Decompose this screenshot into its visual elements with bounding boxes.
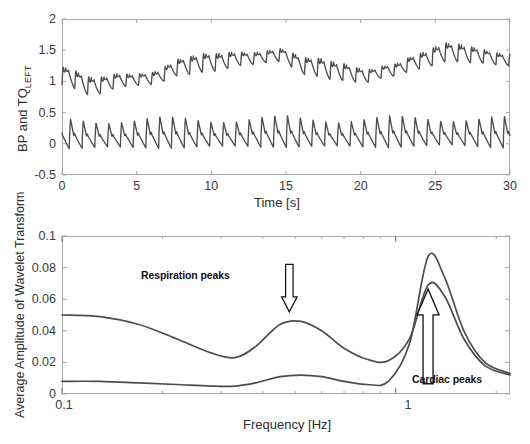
top-x-axis-title: Time [s] — [254, 196, 300, 209]
time-series-plot — [0, 0, 530, 215]
bottom-x-axis-title: Frequency [Hz] — [243, 418, 331, 431]
wavelet-spectrum-panel: 0.1 0.08 0.06 0.04 0.02 0 0.1 1 Average … — [0, 215, 530, 444]
figure-root: 2 1.5 1 0.5 0 -0.5 0 5 10 15 20 25 30 BP… — [0, 0, 530, 444]
bottom-y-axis-title: Average Amplitude of Wavelet Transform — [14, 192, 27, 419]
top-ytick-2: 2 — [18, 13, 56, 26]
top-xtick-30: 30 — [503, 180, 517, 193]
top-xtick-20: 20 — [354, 180, 368, 193]
top-ytick-1p5: 1.5 — [18, 44, 56, 57]
top-xtick-10: 10 — [204, 180, 218, 193]
top-xtick-5: 5 — [133, 180, 140, 193]
cardiac-peaks-label: Cardiac peaks — [412, 373, 482, 385]
top-y-axis-title-subscript: LEFT — [23, 65, 33, 88]
top-xtick-25: 25 — [428, 180, 442, 193]
top-xtick-0: 0 — [59, 180, 66, 193]
top-xtick-15: 15 — [279, 180, 293, 193]
wavelet-spectrum-plot — [0, 215, 530, 444]
top-y-axis-title-main: BP and TQ — [15, 88, 30, 152]
respiration-peaks-label: Respiration peaks — [141, 269, 230, 281]
top-y-axis-title: BP and TQLEFT — [16, 65, 33, 152]
time-series-panel: 2 1.5 1 0.5 0 -0.5 0 5 10 15 20 25 30 BP… — [0, 0, 530, 215]
top-ytick-neg0p5: -0.5 — [14, 169, 56, 182]
bottom-xtick-1: 1 — [405, 399, 412, 412]
bottom-xtick-0p1: 0.1 — [55, 399, 72, 412]
